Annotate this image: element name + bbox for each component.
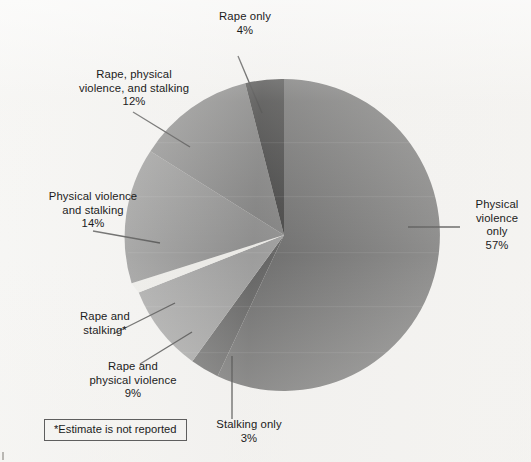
footnote-text: *Estimate is not reported xyxy=(54,423,177,435)
chart-page: Rape only 4% Rape, physical violence, an… xyxy=(0,0,531,462)
label-physical-violence-only: Physical violence only 57% xyxy=(466,198,528,252)
label-rape-pv-line2: physical violence xyxy=(50,374,216,388)
label-rape-only-line1: Rape only xyxy=(186,10,304,24)
label-pv-stalking-value: 14% xyxy=(4,217,182,231)
label-stalking-only-value: 3% xyxy=(182,432,316,446)
label-stalking-only: Stalking only 3% xyxy=(182,418,316,445)
label-pv-only-line1: Physical xyxy=(466,198,528,212)
label-pv-only-line3: only xyxy=(466,225,528,239)
label-pv-stalking-line1: Physical violence xyxy=(4,190,182,204)
label-physical-violence-and-stalking: Physical violence and stalking 14% xyxy=(4,190,182,231)
label-pv-stalking-line2: and stalking xyxy=(4,204,182,218)
label-pv-only-line2: violence xyxy=(466,212,528,226)
label-rape-pv-stalking-line2: violence, and stalking xyxy=(44,82,224,96)
label-rape-physical-violence-and-stalking: Rape, physical violence, and stalking 12… xyxy=(44,68,224,109)
label-pv-only-value: 57% xyxy=(466,239,528,253)
label-rape-pv-stalking-line1: Rape, physical xyxy=(44,68,224,82)
label-stalking-only-line1: Stalking only xyxy=(182,418,316,432)
label-rape-stalking-line1: Rape and xyxy=(42,310,168,324)
label-rape-pv-value: 9% xyxy=(50,387,216,401)
label-rape-stalking-line2: stalking* xyxy=(42,324,168,338)
page-edge-mark xyxy=(2,452,4,460)
label-rape-pv-stalking-value: 12% xyxy=(44,95,224,109)
label-rape-pv-line1: Rape and xyxy=(50,360,216,374)
label-rape-only-value: 4% xyxy=(186,24,304,38)
label-rape-only: Rape only 4% xyxy=(186,10,304,37)
footnote-box: *Estimate is not reported xyxy=(44,419,187,441)
label-rape-and-physical-violence: Rape and physical violence 9% xyxy=(50,360,216,401)
label-rape-and-stalking: Rape and stalking* xyxy=(42,310,168,337)
